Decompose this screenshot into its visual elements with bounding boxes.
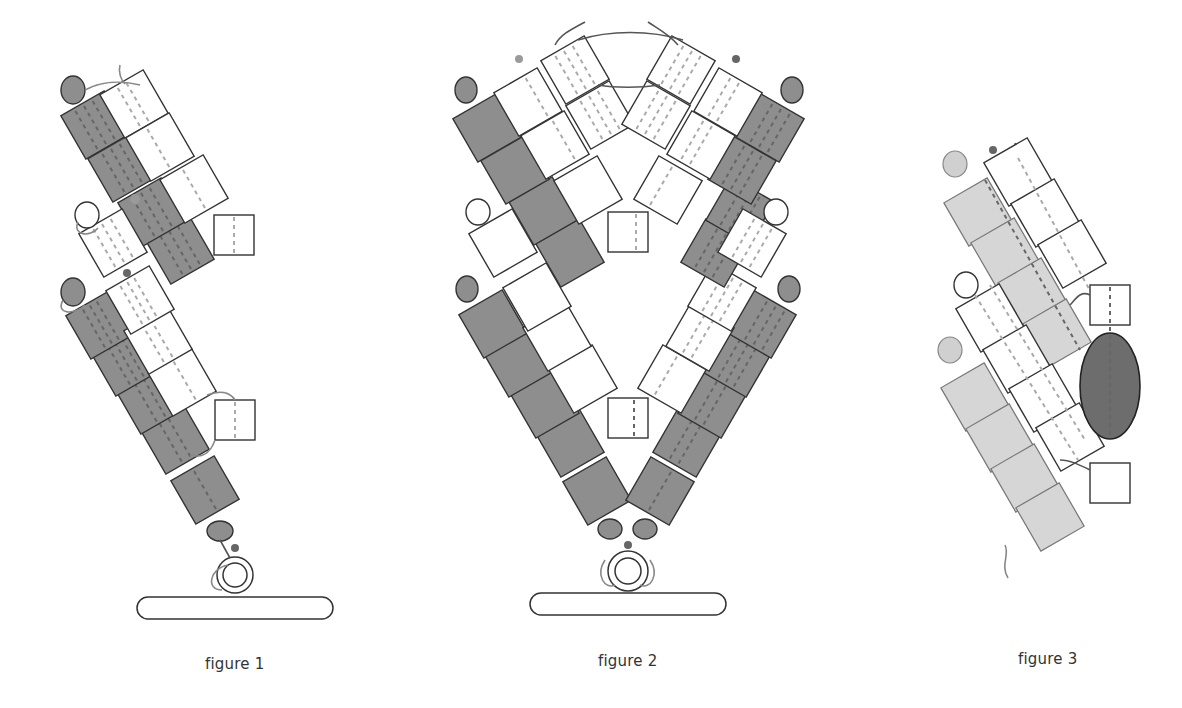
figure-2-caption: figure 2	[598, 652, 657, 670]
arch-loop	[578, 33, 683, 41]
oval-domain	[455, 77, 477, 103]
oval-domain	[943, 151, 967, 177]
dot-marker	[732, 55, 740, 63]
oval-domain	[778, 276, 800, 302]
oval-domain	[61, 278, 85, 306]
oval-domain	[954, 272, 978, 298]
oval-domain	[207, 521, 233, 541]
oval-domain	[938, 337, 962, 363]
oval-domain	[764, 199, 788, 225]
figure-1-caption: figure 1	[205, 655, 264, 673]
oval-domain	[781, 77, 803, 103]
oval-domain	[75, 202, 99, 228]
diagram-canvas	[0, 0, 1182, 708]
domain-square-upright	[1090, 463, 1130, 503]
membrane-bar	[137, 597, 333, 619]
oval-domain	[466, 199, 490, 225]
dot-marker	[123, 269, 131, 277]
dot-marker	[624, 541, 632, 549]
dot-marker	[515, 55, 523, 63]
domain-square-upright	[608, 212, 648, 252]
figure-3	[938, 138, 1140, 578]
figure-2	[453, 22, 804, 615]
oval-domain	[61, 76, 85, 104]
base-ring-inner	[615, 558, 641, 584]
dot-marker	[231, 544, 239, 552]
membrane-bar	[530, 593, 726, 615]
domain-square-upright	[608, 398, 648, 438]
figure-3-caption: figure 3	[1018, 650, 1077, 668]
base-ring-inner	[223, 563, 247, 587]
dot-marker	[130, 194, 140, 204]
figure-1	[61, 65, 333, 619]
dot-marker	[989, 146, 997, 154]
oval-domain	[633, 519, 657, 539]
oval-domain	[598, 519, 622, 539]
oval-domain	[456, 276, 478, 302]
